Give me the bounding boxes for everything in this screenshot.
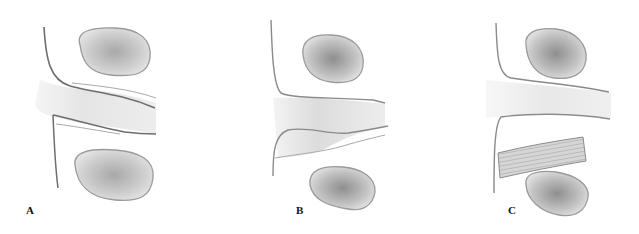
wall-vertical bbox=[53, 115, 58, 188]
lower-nucleus bbox=[526, 171, 588, 215]
upper-nucleus bbox=[79, 28, 150, 76]
upper-nucleus bbox=[526, 29, 586, 79]
panel-label-b: B bbox=[296, 204, 303, 216]
panel-a-drawing bbox=[0, 0, 213, 234]
panel-a: A bbox=[0, 0, 213, 234]
panel-label-a: A bbox=[26, 204, 34, 216]
panel-b: B bbox=[213, 0, 426, 234]
panel-label-c: C bbox=[508, 204, 516, 216]
panel-c-drawing bbox=[426, 0, 639, 234]
upper-nucleus bbox=[303, 35, 363, 83]
lower-nucleus bbox=[75, 150, 153, 201]
panel-c: C bbox=[426, 0, 639, 234]
panel-b-drawing bbox=[213, 0, 426, 234]
lower-nucleus bbox=[310, 167, 375, 210]
channel bbox=[486, 80, 611, 118]
